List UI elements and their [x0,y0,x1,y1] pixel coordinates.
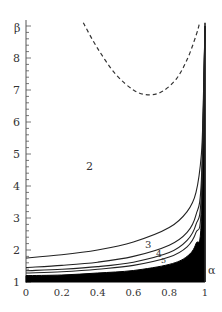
y-tick-label: 5 [13,148,20,161]
region-label-2: 2 [86,160,93,173]
solid-curve [26,26,205,258]
y-tick-label: 3 [13,212,20,225]
x-tick-label: 0.8 [161,287,177,298]
solid-curve [26,26,205,271]
y-axis-label: β [14,22,20,35]
y-axis-ticks: 12345678 [13,26,31,289]
y-tick-label: 7 [13,84,20,97]
chart: 12345678 00.20.40.60.81 β α 2 3 4 5 [0,0,222,312]
x-tick-label: 0.2 [54,287,70,298]
x-tick-label: 0.6 [125,287,141,298]
solid-curve [26,26,205,268]
x-tick-label: 0.4 [90,287,106,298]
region-label-5: 5 [161,256,166,265]
filled-region [26,26,205,282]
y-tick-label: 6 [13,116,20,129]
x-tick-label: 1 [202,287,208,298]
region-label-3: 3 [145,239,151,250]
dashed-curve [83,23,199,95]
solid-curve [26,26,205,273]
y-tick-label: 4 [13,180,20,193]
x-tick-label: 0 [23,287,29,298]
curves [26,23,205,282]
y-tick-label: 1 [13,276,20,289]
black-region [26,26,205,282]
y-tick-label: 2 [13,244,20,257]
y-tick-label: 8 [13,52,20,65]
x-axis-ticks: 00.20.40.60.81 [23,287,208,298]
x-axis-label: α [208,264,216,277]
